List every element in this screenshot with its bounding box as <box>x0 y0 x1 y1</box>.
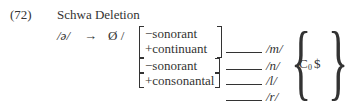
right-bracket <box>215 58 220 73</box>
rule-input: /ə/ <box>57 29 70 42</box>
environment-blank <box>226 84 262 85</box>
right-bracket <box>217 26 222 58</box>
rule-arrow: → <box>84 29 97 42</box>
rule-title: Schwa Deletion <box>57 8 140 21</box>
environment-blank <box>226 69 262 70</box>
syllable-boundary: $ <box>314 57 321 70</box>
left-bracket <box>139 26 144 58</box>
feature-sonorant-2: −sonorant <box>145 59 197 72</box>
consonant-symbol: C <box>299 57 308 70</box>
right-bracket <box>215 73 220 88</box>
left-bracket <box>139 73 144 88</box>
left-bracket <box>139 58 144 73</box>
consonant-subscript: 0 <box>308 64 312 72</box>
target-m: /m/ <box>266 42 283 55</box>
feature-continuant: +continuant <box>145 42 207 55</box>
environment-blank <box>226 52 262 53</box>
rule-output: Ø / <box>108 29 124 42</box>
environment-blank <box>226 100 262 101</box>
feature-consonantal: +consonantal <box>145 74 214 87</box>
target-l: /l/ <box>266 74 277 87</box>
target-r: /r/ <box>266 90 278 103</box>
right-brace: } <box>328 20 348 104</box>
feature-sonorant: −sonorant <box>145 27 197 40</box>
example-number: (72) <box>10 8 32 21</box>
target-n: /n/ <box>266 59 280 72</box>
